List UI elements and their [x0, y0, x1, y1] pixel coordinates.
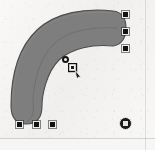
handle-top-right-middle[interactable]	[122, 28, 129, 35]
artwork-layer	[0, 0, 155, 150]
handle-rotation-pivot[interactable]	[62, 56, 69, 63]
canvas-root[interactable]	[0, 0, 155, 150]
handle-top-right-upper[interactable]	[122, 11, 129, 18]
handle-top-right-lower[interactable]	[122, 45, 129, 52]
handle-bottom-center[interactable]	[33, 121, 40, 128]
curved-band-svg[interactable]	[0, 0, 155, 150]
handle-bottom-left[interactable]	[16, 121, 23, 128]
origin-marker[interactable]	[119, 117, 132, 130]
curved-band-fill[interactable]	[11, 10, 126, 124]
handle-bottom-right[interactable]	[49, 121, 56, 128]
